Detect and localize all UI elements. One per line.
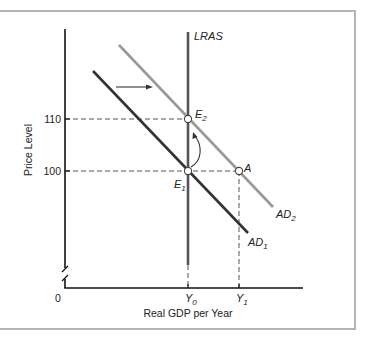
y0-label: Y0	[185, 292, 197, 307]
e2-label: E2	[195, 108, 207, 123]
arrow-right-icon	[146, 85, 153, 90]
lras-label: LRAS	[194, 30, 223, 42]
y1-label: Y1	[236, 292, 248, 307]
a-label: A	[243, 162, 251, 174]
tick-label-100: 100	[43, 165, 61, 177]
tick-label-110: 110	[44, 113, 61, 125]
e1-label: E1	[174, 178, 186, 193]
ad1-curve	[93, 71, 248, 233]
y-axis-title: Price Level	[22, 124, 34, 176]
ad2-curve	[119, 45, 273, 207]
curved-arrow	[191, 136, 200, 167]
point-e2	[184, 115, 191, 122]
origin-label: 0	[55, 292, 61, 304]
chart-canvas: LRAS E2 E1 A AD2 AD1 110 100 0 Y0 Y1 Rea…	[0, 0, 371, 345]
point-e1	[184, 167, 191, 174]
ad2-label: AD2	[275, 208, 296, 223]
ad1-label: AD1	[247, 236, 268, 251]
point-a	[235, 167, 242, 174]
x-axis-title: Real GDP per Year	[143, 307, 233, 319]
